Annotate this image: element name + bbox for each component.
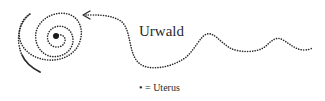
diagram-title: Urwald [139, 23, 184, 40]
diagram-canvas: Urwald • = Uterus [0, 0, 325, 101]
uterus-dot [53, 33, 59, 39]
dotted-spiral [19, 13, 81, 60]
dotted-wavy-line [86, 15, 312, 68]
legend: • = Uterus [139, 82, 180, 93]
